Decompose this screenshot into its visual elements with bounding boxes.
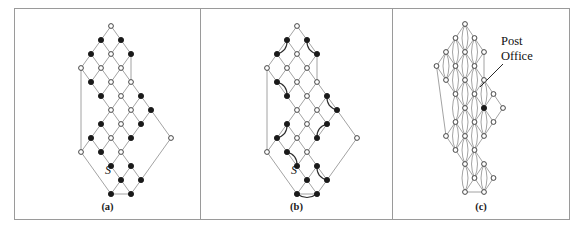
lattice-node-filled bbox=[138, 93, 143, 98]
lattice-node-open bbox=[295, 24, 300, 29]
lattice-node-open bbox=[295, 80, 300, 85]
lattice-node-filled bbox=[284, 121, 289, 126]
lattice-node-filled bbox=[481, 105, 486, 110]
lattice-node-filled bbox=[108, 191, 113, 196]
lattice-node-open bbox=[453, 64, 458, 69]
lattice-node-filled bbox=[284, 149, 289, 154]
lattice-node-filled bbox=[274, 79, 279, 84]
panel-a: S (a) bbox=[15, 8, 200, 220]
lattice-node-filled bbox=[314, 135, 319, 140]
lattice-node-open bbox=[482, 190, 487, 195]
lattice-node-filled bbox=[128, 163, 133, 168]
lattice-node-open bbox=[482, 134, 487, 139]
lattice-node-open bbox=[491, 176, 496, 181]
source-label: S bbox=[105, 163, 111, 177]
lattice-node-open bbox=[129, 108, 134, 113]
lattice-node-filled bbox=[324, 177, 329, 182]
lattice-node-open bbox=[444, 134, 449, 139]
lattice-node-open bbox=[79, 66, 84, 71]
lattice-node-open bbox=[463, 78, 468, 83]
lattice-node-open bbox=[305, 66, 310, 71]
lattice-node-filled bbox=[138, 177, 143, 182]
lattice-node-open bbox=[285, 66, 290, 71]
lattice-node-open bbox=[305, 122, 310, 127]
lattice-node-open bbox=[491, 92, 496, 97]
lattice-lens-edge bbox=[453, 94, 456, 122]
lattice-node-open bbox=[501, 106, 506, 111]
lattice-node-open bbox=[119, 94, 124, 99]
lattice-node-filled bbox=[324, 93, 329, 98]
lattice-node-filled bbox=[128, 51, 133, 56]
source-label: S bbox=[291, 163, 297, 177]
lattice-node-filled bbox=[274, 51, 279, 56]
lattice-node-filled bbox=[128, 191, 133, 196]
post-office-line-2: Office bbox=[501, 49, 533, 64]
lattice-node-open bbox=[472, 92, 477, 97]
lattice-node-filled bbox=[118, 177, 123, 182]
lattice-node-open bbox=[305, 94, 310, 99]
lattice-node-open bbox=[444, 50, 449, 55]
lattice-node-open bbox=[482, 78, 487, 83]
lattice-node-open bbox=[109, 24, 114, 29]
caption-b: (b) bbox=[201, 201, 392, 212]
lattice-node-open bbox=[463, 134, 468, 139]
lattice-node-open bbox=[295, 136, 300, 141]
lattice-node-filled bbox=[284, 37, 289, 42]
lattice-node-open bbox=[315, 108, 320, 113]
lattice-node-filled bbox=[304, 37, 309, 42]
lattice-node-filled bbox=[98, 149, 103, 154]
post-office-pointer-line bbox=[480, 64, 503, 87]
lattice-edge bbox=[141, 138, 171, 180]
lattice-node-open bbox=[109, 136, 114, 141]
lattice-node-open bbox=[463, 22, 468, 27]
lattice-node-open bbox=[265, 150, 270, 155]
lattice-node-open bbox=[463, 162, 468, 167]
lattice-node-filled bbox=[304, 177, 309, 182]
lattice-node-filled bbox=[274, 135, 279, 140]
lattice-node-open bbox=[472, 36, 477, 41]
lattice-node-filled bbox=[148, 107, 153, 112]
post-office-line-1: Post bbox=[501, 34, 533, 49]
lattice-node-filled bbox=[98, 93, 103, 98]
lattice-node-filled bbox=[314, 191, 319, 196]
lattice-node-filled bbox=[324, 121, 329, 126]
lattice-node-open bbox=[472, 120, 477, 125]
figure-container: S (a) S (b) Post Office (c) bbox=[0, 0, 579, 234]
lattice-node-filled bbox=[334, 107, 339, 112]
lattice-diagram-a: S bbox=[15, 8, 200, 203]
lattice-node-open bbox=[119, 122, 124, 127]
lattice-node-open bbox=[295, 52, 300, 57]
lattice-node-open bbox=[295, 108, 300, 113]
lattice-node-open bbox=[463, 106, 468, 111]
lattice-node-open bbox=[434, 64, 439, 69]
lattice-node-open bbox=[109, 80, 114, 85]
lattice-diagram-c bbox=[393, 8, 569, 203]
lattice-node-filled bbox=[88, 135, 93, 140]
lattice-node-open bbox=[453, 120, 458, 125]
lattice-node-open bbox=[109, 52, 114, 57]
lattice-node-open bbox=[129, 80, 134, 85]
lattice-node-filled bbox=[88, 79, 93, 84]
lattice-diagram-b: S bbox=[201, 8, 392, 203]
caption-a: (a) bbox=[15, 201, 200, 212]
panel-c: Post Office (c) bbox=[393, 8, 569, 220]
lattice-node-filled bbox=[98, 121, 103, 126]
lattice-node-filled bbox=[314, 163, 319, 168]
lattice-node-open bbox=[472, 64, 477, 69]
lattice-node-open bbox=[355, 136, 360, 141]
lattice-node-open bbox=[169, 136, 174, 141]
lattice-node-open bbox=[453, 148, 458, 153]
lattice-edge bbox=[327, 138, 357, 180]
lattice-node-open bbox=[482, 162, 487, 167]
lattice-node-open bbox=[472, 176, 477, 181]
lattice-node-filled bbox=[88, 51, 93, 56]
lattice-node-filled bbox=[284, 93, 289, 98]
lattice-node-open bbox=[482, 50, 487, 55]
lattice-node-filled bbox=[128, 135, 133, 140]
lattice-node-open bbox=[109, 108, 114, 113]
caption-c: (c) bbox=[393, 201, 569, 212]
panel-b: S (b) bbox=[201, 8, 392, 220]
lattice-node-open bbox=[99, 66, 104, 71]
lattice-node-open bbox=[453, 92, 458, 97]
lattice-node-open bbox=[305, 150, 310, 155]
